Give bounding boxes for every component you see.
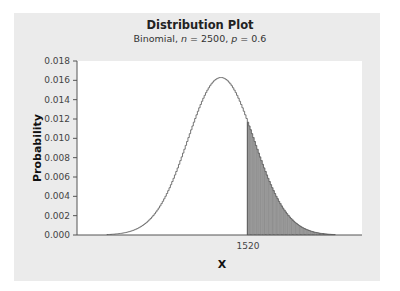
x-tick-label: 1520 (237, 241, 260, 251)
shaded-bar (258, 153, 259, 235)
shaded-bar (300, 226, 301, 235)
y-tick-label: 0.014 (44, 95, 70, 105)
shaded-bar (270, 185, 271, 235)
shaded-bar (251, 134, 252, 235)
y-tick-label: 0.006 (44, 172, 70, 182)
shaded-bar (285, 212, 286, 235)
shaded-bar (262, 164, 263, 235)
shaded-bar (250, 130, 251, 235)
shaded-bar (297, 225, 298, 235)
shaded-bar (289, 217, 290, 235)
shaded-bar (269, 182, 270, 235)
y-axis-label: Probability (31, 114, 44, 182)
shaded-bar (299, 225, 300, 235)
shaded-bar (254, 141, 255, 235)
shaded-bar (253, 138, 254, 235)
shaded-bar (265, 171, 266, 235)
shaded-bar (295, 222, 296, 235)
shaded-bar (277, 199, 278, 235)
y-tick-label: 0.004 (44, 191, 70, 201)
y-tick-label: 0.000 (44, 230, 70, 240)
y-tick-label: 0.016 (44, 75, 70, 85)
shaded-bar (268, 178, 269, 235)
shaded-bar (272, 188, 273, 235)
shaded-bar (274, 194, 275, 235)
shaded-bar (276, 196, 277, 235)
chart-svg: 0.0000.0020.0040.0060.0080.0100.0120.014… (0, 0, 400, 291)
plot-area (77, 61, 362, 235)
shaded-bar (259, 157, 260, 235)
shaded-bar (291, 218, 292, 235)
shaded-bar (255, 145, 256, 235)
y-tick-label: 0.008 (44, 153, 70, 163)
y-tick-label: 0.010 (44, 133, 70, 143)
shaded-bar (257, 149, 258, 235)
shaded-bar (273, 191, 274, 235)
y-tick-label: 0.002 (44, 211, 70, 221)
shaded-bar (282, 208, 283, 235)
y-tick-label: 0.012 (44, 114, 70, 124)
shaded-bar (261, 161, 262, 235)
shaded-bar (293, 221, 294, 235)
shaded-bar (281, 206, 282, 235)
x-axis-label: X (218, 258, 227, 271)
shaded-bar (264, 168, 265, 235)
shaded-bar (292, 220, 293, 235)
shaded-bar (278, 201, 279, 235)
shaded-bar (288, 215, 289, 235)
shaded-bar (286, 214, 287, 235)
shaded-bar (249, 126, 250, 235)
y-tick-label: 0.018 (44, 56, 70, 66)
shaded-bar (280, 204, 281, 235)
shaded-bar (284, 210, 285, 235)
shaded-bar (266, 175, 267, 235)
shaded-bar (296, 223, 297, 235)
y-ticks: 0.0000.0020.0040.0060.0080.0100.0120.014… (44, 56, 77, 240)
